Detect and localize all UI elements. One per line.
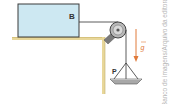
- image-credit-text: Banco de imagens/Arquivo da editora: [161, 0, 168, 104]
- block-b-label: B: [69, 12, 75, 21]
- atwood-table-diagram: B P g: [0, 0, 174, 104]
- pan-hanger: [114, 63, 138, 79]
- image-credit: Banco de imagens/Arquivo da editora: [158, 2, 170, 102]
- pan-label: P: [112, 68, 117, 75]
- table: [12, 37, 105, 94]
- table-side-edge: [102, 37, 105, 94]
- gravity-arrow-icon: [134, 29, 139, 62]
- gravity-label: g: [141, 44, 145, 52]
